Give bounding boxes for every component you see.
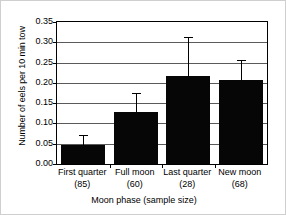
error-bar [136,93,137,112]
y-tick-label: 0.15 [25,98,53,107]
y-tick-mark [53,63,57,64]
bar [219,80,263,164]
y-tick-mark [53,42,57,43]
y-tick-label: 0.05 [25,139,53,148]
y-tick-mark [53,164,57,165]
x-tick-sample-size: (68) [208,178,273,190]
error-bar-cap [132,93,141,94]
x-tick-category: New moon [208,166,273,178]
y-tick-mark [53,22,57,23]
plot-inner [57,22,267,164]
chart-figure: Number of eels per 10 min tow 0.000.050.… [0,0,286,215]
bar [114,112,158,164]
x-tick-label: New moon(68) [208,166,273,190]
error-bar [188,37,189,76]
x-axis-title: Moon phase (sample size) [1,194,286,206]
error-bar [241,60,242,80]
x-axis-tick-labels: First quarter(85)Full moon(60)Last quart… [56,166,266,192]
y-tick-label: 0.20 [25,78,53,87]
y-tick-mark [53,144,57,145]
y-axis-tick-labels: 0.000.050.100.150.200.250.300.35 [25,21,53,163]
error-bar-cap [237,60,246,61]
error-bar-cap [184,37,193,38]
bar [166,76,210,164]
y-tick-label: 0.10 [25,118,53,127]
y-tick-mark [53,103,57,104]
y-tick-label: 0.30 [25,37,53,46]
y-tick-mark [53,83,57,84]
error-bar-cap [79,135,88,136]
gridline [57,63,267,64]
gridline [57,42,267,43]
plot-area [56,21,268,165]
bar [61,145,105,164]
error-bar [83,135,84,144]
y-tick-label: 0.00 [25,159,53,168]
y-tick-label: 0.35 [25,17,53,26]
y-tick-mark [53,123,57,124]
y-tick-label: 0.25 [25,58,53,67]
